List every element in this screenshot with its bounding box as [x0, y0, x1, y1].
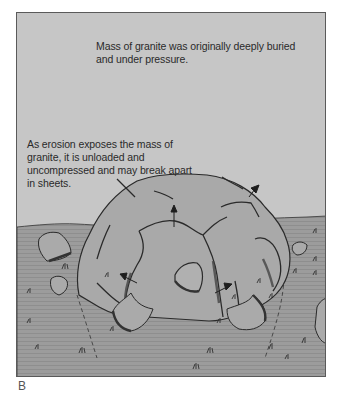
annotation-middle: As erosion exposes the mass of granite, … [27, 138, 197, 190]
annotation-top: Mass of granite was originally deeply bu… [96, 40, 296, 66]
exfoliation-illustration [17, 13, 326, 377]
panel-label: B [18, 379, 26, 393]
diagram-frame: Mass of granite was originally deeply bu… [16, 12, 326, 377]
